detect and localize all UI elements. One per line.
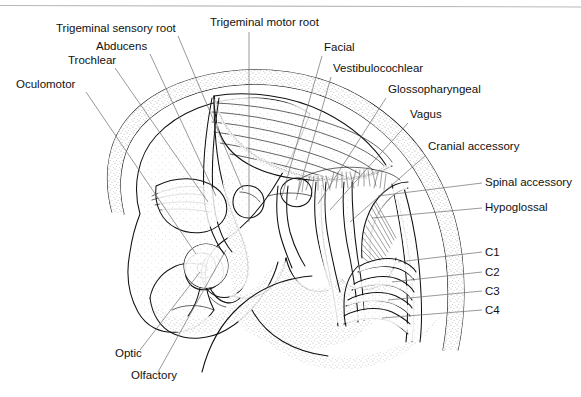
label-trochlear: Trochlear — [68, 54, 116, 66]
label-c2: C2 — [485, 266, 500, 278]
label-oculomotor: Oculomotor — [16, 78, 76, 90]
label-hypoglossal: Hypoglossal — [485, 201, 548, 213]
diagram-canvas: Trigeminal sensory root Abducens Trochle… — [0, 0, 581, 397]
label-vestibulocochlear: Vestibulocochlear — [333, 62, 423, 74]
label-olfactory: Olfactory — [131, 369, 177, 381]
label-spinal-accessory: Spinal accessory — [485, 176, 572, 188]
label-c3: C3 — [485, 285, 500, 297]
label-facial: Facial — [324, 41, 355, 53]
label-vagus: Vagus — [410, 108, 442, 120]
label-c1: C1 — [485, 246, 500, 258]
anatomy-figure: Trigeminal sensory root Abducens Trochle… — [0, 0, 581, 397]
label-c4: C4 — [485, 304, 500, 316]
label-glossopharyngeal: Glossopharyngeal — [388, 83, 481, 95]
label-optic: Optic — [115, 347, 142, 359]
label-abducens: Abducens — [96, 40, 147, 52]
label-cranial-accessory: Cranial accessory — [428, 140, 520, 152]
label-trigeminal-sensory-root: Trigeminal sensory root — [56, 22, 177, 34]
label-trigeminal-motor-root: Trigeminal motor root — [210, 16, 320, 28]
